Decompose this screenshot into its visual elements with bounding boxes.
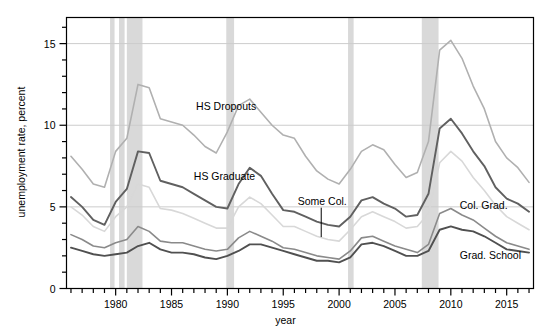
- x-tick-label: 1990: [216, 298, 240, 310]
- y-axis-ticks: 051015: [44, 27, 67, 294]
- recession-band: [110, 18, 114, 289]
- y-tick-label: 10: [44, 119, 56, 131]
- recession-band: [119, 18, 125, 289]
- series-annotation-label: HS Graduate: [194, 170, 255, 182]
- y-tick-label: 5: [50, 201, 56, 213]
- chart-figure: 051015 19801985199019952000200520102015 …: [0, 0, 558, 331]
- x-tick-label: 1985: [160, 298, 184, 310]
- series-annotation-label: Some Col.: [298, 195, 347, 207]
- x-tick-label: 2000: [327, 298, 351, 310]
- y-axis-label: unemployment rate, percent: [15, 87, 27, 218]
- x-tick-label: 2010: [439, 298, 463, 310]
- x-tick-label: 2015: [495, 298, 519, 310]
- series-annotations: HS DropoutsHS GraduateSome Col.Col. Grad…: [194, 100, 521, 261]
- series-annotation-label: Grad. School: [460, 249, 521, 261]
- series-annotation-label: Col. Grad.: [460, 199, 508, 211]
- x-axis-ticks: 19801985199019952000200520102015: [71, 289, 529, 310]
- unemployment-rate-line-chart: 051015 19801985199019952000200520102015 …: [0, 0, 558, 331]
- x-tick-label: 1995: [272, 298, 296, 310]
- x-tick-label: 1980: [104, 298, 128, 310]
- y-tick-label: 0: [50, 283, 56, 295]
- series-annotation-label: HS Dropouts: [196, 100, 256, 112]
- x-tick-label: 2005: [383, 298, 407, 310]
- recession-band: [226, 18, 234, 289]
- y-tick-label: 15: [44, 38, 56, 50]
- x-axis-label: year: [275, 314, 296, 326]
